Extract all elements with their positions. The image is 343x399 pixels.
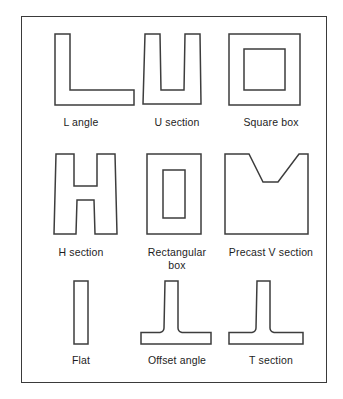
shape-cell-offset-angle: Offset angle — [133, 278, 221, 378]
precast-v-section-icon — [219, 150, 323, 240]
shape-label-t-section: T section — [219, 354, 323, 367]
l-angle-icon — [29, 30, 133, 110]
shape-label-precast-v-section: Precast V section — [219, 246, 323, 259]
shape-label-l-angle: L angle — [29, 116, 133, 129]
square-box-icon — [219, 30, 323, 110]
rectangular-box-icon — [133, 150, 221, 240]
shape-label-u-section: U section — [133, 116, 221, 129]
shape-cell-t-section: T section — [219, 278, 323, 378]
shape-label-square-box: Square box — [219, 116, 323, 129]
figure-root: L angle U section Square box H section — [0, 0, 343, 399]
shape-label-rectangular-box: Rectangular box — [133, 246, 221, 271]
shape-cell-precast-v-section: Precast V section — [219, 150, 323, 272]
shape-cell-u-section: U section — [133, 30, 221, 142]
t-section-icon — [219, 278, 323, 348]
shape-cell-rectangular-box: Rectangular box — [133, 150, 221, 272]
shape-label-offset-angle: Offset angle — [133, 354, 221, 367]
figure-caption — [21, 389, 327, 399]
shape-cell-square-box: Square box — [219, 30, 323, 142]
u-section-icon — [133, 30, 221, 110]
shape-label-h-section: H section — [29, 246, 133, 259]
shape-cell-l-angle: L angle — [29, 30, 133, 142]
shape-grid: L angle U section Square box H section — [21, 16, 327, 383]
h-section-icon — [29, 150, 133, 240]
flat-icon — [29, 278, 133, 348]
shape-label-flat: Flat — [29, 354, 133, 367]
shape-cell-flat: Flat — [29, 278, 133, 378]
shape-cell-h-section: H section — [29, 150, 133, 272]
offset-angle-icon — [133, 278, 221, 348]
